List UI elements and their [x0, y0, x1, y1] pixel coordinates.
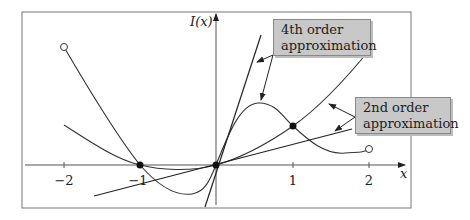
callout-arrow: [261, 55, 273, 100]
y-axis-label: I(x): [189, 14, 213, 29]
callout-arrow: [257, 55, 273, 62]
callout-arrow: [329, 104, 355, 117]
callout-2nd-order: 2nd order approximation: [355, 97, 451, 134]
tick-label: −2: [54, 173, 73, 188]
marked-point: [290, 123, 297, 130]
callout-arrow: [335, 117, 355, 131]
callout-line: approximation: [363, 116, 443, 132]
x-axis-label: x: [400, 166, 408, 181]
callout-line: 2nd order: [363, 100, 443, 116]
callout-line: 4th order: [281, 22, 363, 38]
tick-label: 1: [289, 173, 297, 188]
callout-4th-order: 4th order approximation: [273, 19, 371, 56]
marked-point: [213, 162, 220, 169]
parabola-approximation: [64, 48, 371, 170]
open-endpoint: [61, 44, 68, 51]
steep-tangent-line: [205, 35, 261, 207]
open-endpoint: [366, 146, 373, 153]
callout-line: approximation: [281, 38, 363, 54]
tick-label: 2: [365, 173, 373, 188]
marked-point: [137, 162, 144, 169]
